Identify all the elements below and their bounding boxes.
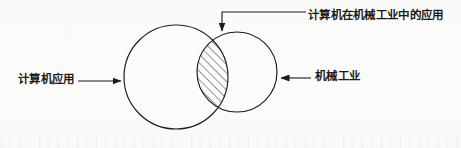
intersection-leader-arrow	[222, 12, 306, 31]
left-set-label: 计算机应用	[18, 74, 75, 86]
right-set-label: 机械工业	[315, 71, 360, 83]
venn-diagram-figure: 计算机应用 机械工业 计算机在机械工业中的应用	[0, 0, 461, 148]
intersection-label: 计算机在机械工业中的应用	[308, 10, 444, 22]
